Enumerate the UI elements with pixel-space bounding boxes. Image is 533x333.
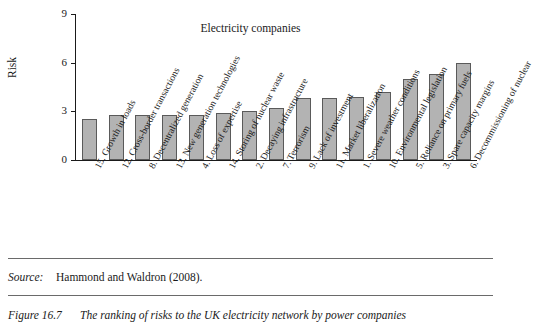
y-tick-mark-6 <box>71 63 75 64</box>
y-tick-mark-3 <box>71 111 75 112</box>
source-text: Hammond and Waldron (2008). <box>56 271 202 283</box>
bar <box>82 119 97 160</box>
caption-text: The ranking of risks to the UK electrici… <box>80 309 406 321</box>
source-line: Source:Hammond and Waldron (2008). <box>8 271 202 283</box>
chart-area: Electricity companies Risk 9 6 3 0 15. G… <box>0 0 501 250</box>
divider-top <box>8 258 493 259</box>
y-tick-label-6: 6 <box>45 56 67 68</box>
y-axis-label: Risk <box>6 57 18 78</box>
figure-caption: Figure 16.7The ranking of risks to the U… <box>8 309 406 321</box>
figure-number: Figure 16.7 <box>8 309 80 321</box>
y-tick-label-9: 9 <box>45 7 67 19</box>
source-label: Source: <box>8 271 56 283</box>
divider-bottom <box>8 295 493 296</box>
y-tick-mark-0 <box>71 160 75 161</box>
y-tick-mark-9 <box>71 14 75 15</box>
y-tick-label-3: 3 <box>45 104 67 116</box>
x-axis-labels: 15. Growth in loads12. Cross-border tran… <box>0 163 501 253</box>
